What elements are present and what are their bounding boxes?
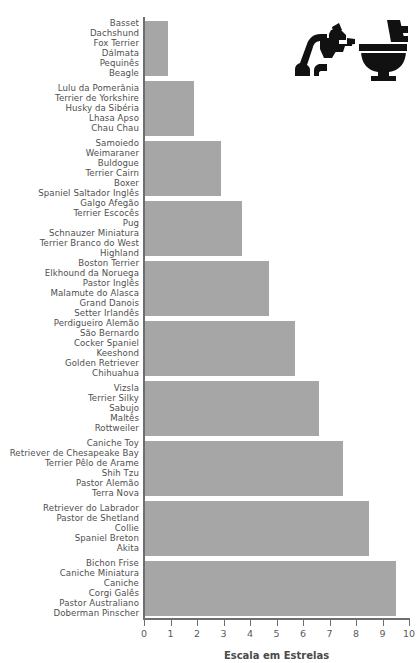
breed-label: Collie [0, 523, 139, 533]
breed-label: Pequinês [0, 58, 139, 68]
breed-label: Terra Nova [0, 488, 139, 498]
breed-label: Terrier de Yorkshire [0, 93, 139, 103]
bar[interactable] [144, 141, 221, 196]
x-tick-label: 7 [318, 628, 342, 639]
chart-row: Boston TerrierElkhound da NoruegaPastor … [0, 258, 418, 318]
breed-label: Chau Chau [0, 123, 139, 133]
x-tick [144, 619, 145, 626]
y-axis-line [143, 17, 145, 619]
breed-label: Caniche Toy [0, 438, 139, 448]
breed-label: Vizsla [0, 383, 139, 393]
breed-label: Weimaraner [0, 148, 139, 158]
breed-label: Spaniel Breton [0, 533, 139, 543]
bar[interactable] [144, 201, 242, 256]
breed-label: Setter Irlandês [0, 308, 139, 318]
bar[interactable] [144, 81, 194, 136]
x-axis-title: Escala em Estrelas [144, 650, 409, 663]
x-tick-label: 10 [397, 628, 418, 639]
breed-label-group: Boston TerrierElkhound da NoruegaPastor … [0, 258, 139, 318]
bar[interactable] [144, 501, 369, 556]
breed-label-group: Lulu da PomerâniaTerrier de YorkshireHus… [0, 83, 139, 133]
breed-label: Caniche Miniatura [0, 568, 139, 578]
breed-label: São Bernardo [0, 328, 139, 338]
breed-label-group: Bichon FriseCaniche MiniaturaCanicheCorg… [0, 558, 139, 618]
breed-label: Beagle [0, 68, 139, 78]
breed-label: Maltês [0, 413, 139, 423]
x-tick [250, 619, 251, 626]
breed-label: Terrier Escocês [0, 208, 139, 218]
breed-label: Galgo Afegão [0, 198, 139, 208]
breed-label: Highland [0, 248, 139, 258]
breed-label: Terrier Silky [0, 393, 139, 403]
x-tick-label: 0 [132, 628, 156, 639]
breed-label: Corgi Galês [0, 588, 139, 598]
chart-row: Bichon FriseCaniche MiniaturaCanicheCorg… [0, 558, 418, 618]
breed-label: Chihuahua [0, 368, 139, 378]
breed-label: Perdigueiro Alemão [0, 318, 139, 328]
breed-label-group: Galgo AfegãoTerrier EscocêsPugSchnauzer … [0, 198, 139, 258]
breed-label-group: SamoiedoWeimaranerBuldogueTerrier CairnB… [0, 138, 139, 198]
chart-rows: BassetDachshundFox TerrierDálmataPequinê… [0, 18, 418, 618]
breed-label: Shih Tzu [0, 468, 139, 478]
chart-row: SamoiedoWeimaranerBuldogueTerrier CairnB… [0, 138, 418, 198]
breed-label-group: Retriever do LabradorPastor de ShetlandC… [0, 503, 139, 553]
bar[interactable] [144, 321, 295, 376]
breed-label: Rottweiler [0, 423, 139, 433]
dog-at-toilet-icon [283, 18, 408, 84]
breed-label: Basset [0, 18, 139, 28]
breed-label: Dachshund [0, 28, 139, 38]
x-tick-label: 9 [371, 628, 395, 639]
breed-label: Retriever de Chesapeake Bay [0, 448, 139, 458]
x-tick [330, 619, 331, 626]
breed-label: Terrier Cairn [0, 168, 139, 178]
x-tick-label: 5 [265, 628, 289, 639]
breed-label: Retriever do Labrador [0, 503, 139, 513]
breed-label: Schnauzer Miniatura [0, 228, 139, 238]
chart-row: Retriever do LabradorPastor de ShetlandC… [0, 498, 418, 558]
breed-label: Keeshond [0, 348, 139, 358]
chart-row: Caniche ToyRetriever de Chesapeake BayTe… [0, 438, 418, 498]
breed-label: Pug [0, 218, 139, 228]
bar[interactable] [144, 21, 168, 76]
breed-label: Buldogue [0, 158, 139, 168]
breed-label: Malamute do Alasca [0, 288, 139, 298]
x-tick-label: 4 [238, 628, 262, 639]
breed-label: Pastor de Shetland [0, 513, 139, 523]
breed-label: Caniche [0, 578, 139, 588]
breed-label: Cocker Spaniel [0, 338, 139, 348]
x-tick-label: 3 [212, 628, 236, 639]
x-tick [277, 619, 278, 626]
breed-label: Sabujo [0, 403, 139, 413]
breed-label: Lulu da Pomerânia [0, 83, 139, 93]
x-tick [303, 619, 304, 626]
x-tick-label: 1 [159, 628, 183, 639]
x-tick [383, 619, 384, 626]
breed-label-group: Caniche ToyRetriever de Chesapeake BayTe… [0, 438, 139, 498]
chart-row: Perdigueiro AlemãoSão BernardoCocker Spa… [0, 318, 418, 378]
x-tick [197, 619, 198, 626]
bar[interactable] [144, 441, 343, 496]
breed-label: Samoiedo [0, 138, 139, 148]
breed-label: Terrier Pêlo de Arame [0, 458, 139, 468]
breed-label: Dálmata [0, 48, 139, 58]
breed-label: Pastor Alemão [0, 478, 139, 488]
breed-label: Husky da Sibéria [0, 103, 139, 113]
x-tick-label: 6 [291, 628, 315, 639]
chart-row: Galgo AfegãoTerrier EscocêsPugSchnauzer … [0, 198, 418, 258]
chart-row: Lulu da PomerâniaTerrier de YorkshireHus… [0, 78, 418, 138]
x-tick [356, 619, 357, 626]
breed-label-group: BassetDachshundFox TerrierDálmataPequinê… [0, 18, 139, 78]
chart-row: VizslaTerrier SilkySabujoMaltêsRottweile… [0, 378, 418, 438]
breed-label: Terrier Branco do West [0, 238, 139, 248]
bar[interactable] [144, 561, 396, 616]
breed-label: Boxer [0, 178, 139, 188]
bar[interactable] [144, 381, 319, 436]
breed-label-group: Perdigueiro AlemãoSão BernardoCocker Spa… [0, 318, 139, 378]
breed-label: Golden Retriever [0, 358, 139, 368]
breed-label: Elkhound da Noruega [0, 268, 139, 278]
breed-label: Pastor Australiano [0, 598, 139, 608]
x-tick [409, 619, 410, 626]
breed-label: Lhasa Apso [0, 113, 139, 123]
bar[interactable] [144, 261, 269, 316]
breed-label: Spaniel Saltador Inglês [0, 188, 139, 198]
